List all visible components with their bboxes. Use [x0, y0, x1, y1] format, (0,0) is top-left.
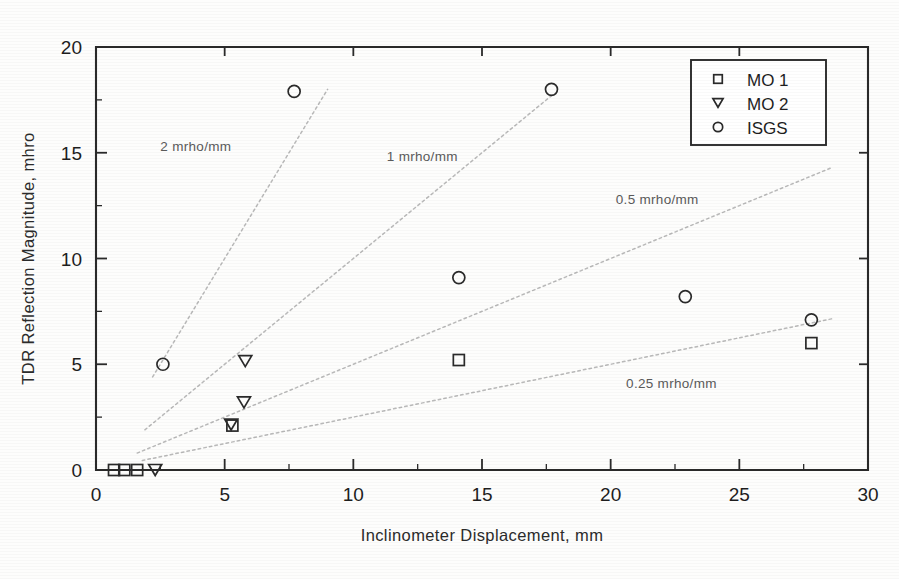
data-point-triangle-down — [237, 397, 250, 408]
x-tick-label: 25 — [729, 484, 750, 505]
reference-slope-line — [142, 319, 832, 461]
series-mo-1 — [109, 338, 817, 476]
y-tick-label: 15 — [61, 143, 82, 164]
slope-annotation: 1 mrho/mm — [387, 149, 458, 164]
y-tick-label: 20 — [61, 37, 82, 58]
x-tick-label: 10 — [343, 484, 364, 505]
data-point-circle — [805, 314, 817, 326]
data-point-square — [453, 355, 464, 366]
scatter-plot: 2 mrho/mm1 mrho/mm0.5 mrho/mm0.25 mrho/m… — [0, 0, 899, 579]
chart-figure: 2 mrho/mm1 mrho/mm0.5 mrho/mm0.25 mrho/m… — [0, 0, 899, 579]
annotations-layer: 2 mrho/mm1 mrho/mm0.5 mrho/mm0.25 mrho/m… — [160, 139, 716, 391]
legend-label: MO 1 — [747, 71, 789, 90]
reference-slope-line — [137, 168, 832, 454]
reference-slope-line — [153, 89, 328, 377]
chart-legend[interactable]: MO 1MO 2ISGS — [691, 60, 826, 145]
data-point-circle — [288, 85, 300, 97]
x-tick-label: 0 — [91, 484, 102, 505]
series-mo-2 — [149, 356, 252, 476]
slope-annotation: 2 mrho/mm — [160, 139, 231, 154]
legend-label: MO 2 — [747, 95, 789, 114]
y-tick-label: 5 — [71, 354, 82, 375]
x-tick-label: 30 — [857, 484, 878, 505]
legend-label: ISGS — [747, 119, 788, 138]
x-tick-label: 20 — [600, 484, 621, 505]
x-axis-title: Inclinometer Displacement, mm — [361, 526, 604, 544]
data-point-circle — [453, 272, 465, 284]
slope-annotation: 0.5 mrho/mm — [616, 192, 699, 207]
y-axis-title: TDR Reflection Magnitude, mhro — [19, 132, 37, 384]
x-tick-label: 5 — [219, 484, 230, 505]
data-point-square — [806, 338, 817, 349]
data-point-triangle-down — [239, 356, 252, 367]
data-point-circle — [545, 83, 557, 95]
x-tick-label: 15 — [471, 484, 492, 505]
data-point-circle — [679, 291, 691, 303]
y-tick-label: 10 — [61, 249, 82, 270]
slope-annotation: 0.25 mrho/mm — [626, 376, 717, 391]
y-tick-label: 0 — [71, 460, 82, 481]
